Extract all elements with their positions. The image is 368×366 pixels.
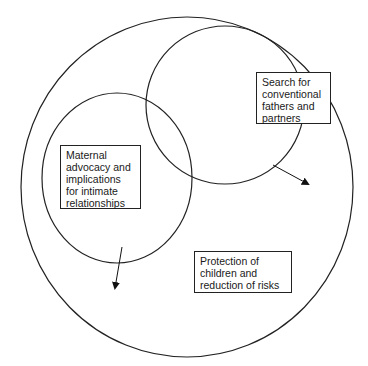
label-line: fathers and [262,100,326,112]
label-protection-children: Protection of children and reduction of … [194,251,292,293]
label-line: reduction of risks [200,279,287,291]
label-line: relationships [66,197,136,209]
maternal-outward-arrow [115,247,122,288]
label-line: advocacy and [66,161,136,173]
label-line: children and [200,267,287,279]
label-line: Protection of [200,255,287,267]
search-outward-arrow [273,165,308,184]
label-line: implications [66,173,136,185]
label-line: Search for [262,76,326,88]
label-search-fathers: Search for conventional fathers and part… [256,72,331,124]
diagram-canvas [0,0,368,366]
label-maternal-advocacy: Maternal advocacy and implications for i… [60,145,141,209]
label-line: conventional [262,88,326,100]
label-line: for intimate [66,185,136,197]
label-line: Maternal [66,149,136,161]
label-line: partners [262,112,326,124]
